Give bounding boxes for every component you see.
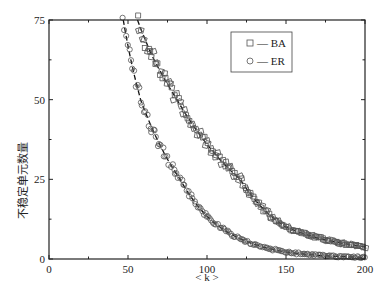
y-axis-label: 不稳定单元数量 — [16, 142, 29, 219]
ba-point — [136, 13, 141, 18]
y-tick-label: 0 — [40, 253, 46, 265]
er-point — [139, 103, 144, 108]
legend-ba-label: — BA — [256, 37, 286, 49]
x-tick-label: 150 — [278, 263, 295, 275]
chart: 0501001502000255075 < k > 不稳定单元数量 — BA —… — [0, 0, 386, 302]
legend-er-label: — ER — [256, 55, 285, 67]
x-tick-label: 0 — [46, 263, 52, 275]
ba-point — [264, 207, 270, 213]
y-tick-label: 75 — [34, 14, 46, 26]
y-tick-label: 25 — [34, 173, 46, 185]
y-tick-label: 50 — [34, 94, 46, 106]
x-tick-label: 200 — [357, 263, 374, 275]
legend: — BA — ER — [231, 32, 292, 72]
x-tick-label: 50 — [123, 263, 135, 275]
ba-point — [141, 37, 147, 43]
ba-point — [254, 200, 260, 206]
x-axis-label: < k > — [195, 271, 218, 283]
er-point — [127, 47, 132, 52]
